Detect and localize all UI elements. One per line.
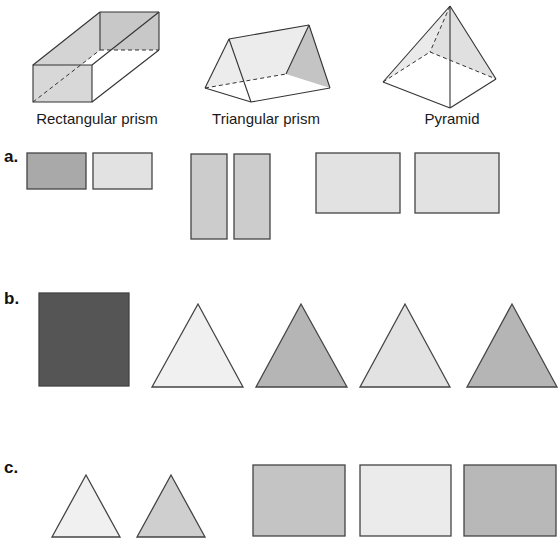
net-rect (234, 154, 270, 239)
option-label-a: a. (4, 147, 18, 166)
solid-label-pyramid: Pyramid (424, 110, 479, 127)
option-label-b: b. (4, 289, 19, 308)
solid-label-triangular-prism: Triangular prism (212, 110, 320, 127)
nets-diagram: Rectangular prism Triangular prism Pyram… (0, 0, 560, 542)
net-triangle (467, 304, 557, 387)
option-label-c: c. (4, 458, 18, 477)
net-rect (191, 154, 227, 239)
pyramid-figure (383, 6, 496, 108)
net-rect (316, 153, 400, 213)
net-triangle (152, 304, 243, 387)
net-square (39, 293, 129, 386)
option-a[interactable]: a. (4, 147, 499, 239)
solid-label-rectangular-prism: Rectangular prism (36, 110, 158, 127)
net-rect (253, 465, 345, 536)
net-triangle (52, 475, 120, 537)
net-rect (360, 465, 451, 536)
net-triangle (256, 304, 347, 387)
rectangular-prism-figure (33, 12, 159, 102)
net-rect (27, 153, 86, 189)
triangular-prism-figure (205, 25, 330, 102)
option-b[interactable]: b. (4, 289, 557, 387)
net-triangle (137, 475, 205, 537)
net-rect (415, 153, 499, 213)
net-rect (93, 153, 152, 189)
option-c[interactable]: c. (4, 458, 556, 537)
net-rect (464, 465, 556, 536)
net-triangle (360, 304, 450, 387)
